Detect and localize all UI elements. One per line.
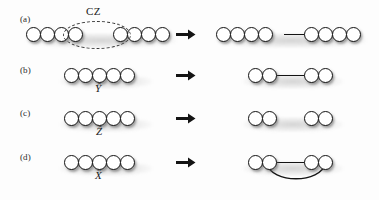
qubit-node [258,27,273,42]
operation-label-x-hat: X̂ [95,169,102,181]
qubit-node [78,68,93,83]
row-label-b: (b) [20,65,31,75]
qubit-node [262,111,277,126]
operation-label-cz: CZ [86,5,101,17]
qubit-node [230,27,245,42]
qubit-node [78,111,93,126]
qubit-node [64,111,79,126]
qubit-node [92,68,107,83]
qubit-node [106,111,121,126]
right-arrow-icon [176,70,196,81]
operation-label-y-hat: Ŷ [95,82,101,94]
qubit-node [304,68,319,83]
qubit-node [155,27,170,42]
qubit-node [304,155,319,170]
qubit-node [318,27,333,42]
qubit-node [346,27,361,42]
right-arrow-icon [176,29,196,40]
right-arrow-icon [176,113,196,124]
qubit-node [92,111,107,126]
qubit-node [318,68,333,83]
qubit-node [304,111,319,126]
operation-label-z-hat: Ẑ [96,125,102,137]
qubit-node [106,68,121,83]
qubit-node [64,155,79,170]
right-arrow-icon [176,157,196,168]
qubit-node [304,27,319,42]
cz-highlight-ellipse [63,21,131,49]
qubit-node [78,155,93,170]
qubit-node [92,155,107,170]
row-label-c: (c) [20,108,30,118]
row-label-d: (d) [20,152,31,162]
qubit-node [120,68,135,83]
qubit-node [248,111,263,126]
row-label-a: (a) [20,14,30,24]
qubit-node [332,27,347,42]
qubit-node [120,111,135,126]
qubit-node [216,27,231,42]
qubit-node [64,68,79,83]
qubit-node [248,68,263,83]
qubit-node [120,155,135,170]
qubit-node [262,155,277,170]
qubit-node [318,155,333,170]
qubit-node [262,68,277,83]
qubit-node [318,111,333,126]
figure-canvas: (a) CZ (b) [0,0,379,200]
qubit-node [106,155,121,170]
qubit-node [26,27,41,42]
qubit-node [40,27,55,42]
qubit-node [244,27,259,42]
qubit-node [141,27,156,42]
qubit-node [248,155,263,170]
